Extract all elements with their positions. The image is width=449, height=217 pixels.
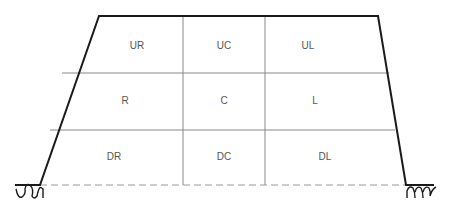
zone-label-c: C: [220, 95, 227, 106]
zone-label-l: L: [312, 95, 318, 106]
zone-label-dl: DL: [319, 151, 332, 162]
zone-label-uc: UC: [217, 40, 231, 51]
zone-label-ur: UR: [130, 40, 144, 51]
left-ground-wave-icon: [16, 185, 43, 199]
zone-label-r: R: [121, 95, 128, 106]
zone-label-ul: UL: [302, 40, 315, 51]
right-ground-wave-icon: [407, 187, 436, 198]
zone-label-dr: DR: [107, 151, 121, 162]
zone-label-dc: DC: [217, 151, 231, 162]
zone-diagram: UR UC UL R C L DR DC DL: [0, 0, 449, 217]
